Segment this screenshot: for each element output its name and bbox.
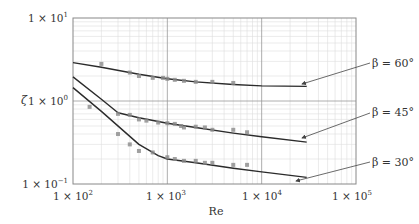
data-point — [231, 128, 235, 132]
data-points — [88, 62, 249, 167]
data-point — [182, 125, 186, 129]
data-point — [165, 77, 169, 81]
series-line-0 — [73, 63, 307, 87]
arrow-beta30 — [296, 162, 370, 181]
y-axis-label: ζ — [21, 94, 28, 107]
data-point — [231, 81, 235, 85]
y-tick-10e-1: 1 × 10−1 — [22, 177, 68, 190]
annotation-beta30: β = 30° — [372, 156, 414, 169]
data-point — [182, 159, 186, 163]
data-point — [165, 155, 169, 159]
data-point — [165, 121, 169, 125]
data-point — [194, 125, 198, 129]
data-point — [203, 161, 207, 165]
data-point — [151, 150, 155, 154]
data-point — [128, 142, 132, 146]
data-point — [210, 80, 214, 84]
data-point — [173, 157, 177, 161]
y-tick-10e0: 1 × 100 — [28, 94, 68, 107]
data-point — [116, 132, 120, 136]
y-tick-10e1: 1 × 101 — [28, 11, 68, 24]
data-point — [144, 119, 148, 123]
x-tick-10e4: 1 × 104 — [242, 189, 283, 202]
data-point — [137, 149, 141, 153]
data-point — [210, 161, 214, 165]
series-lines — [73, 63, 307, 178]
chart: 1 × 101 1 × 100 1 × 10−1 1 × 102 1 × 103… — [0, 0, 419, 224]
annotation-beta60: β = 60° — [372, 57, 414, 70]
data-point — [173, 122, 177, 126]
data-point — [245, 163, 249, 167]
data-point — [156, 121, 160, 125]
data-point — [88, 105, 92, 109]
data-point — [99, 62, 103, 66]
x-tick-10e3: 1 × 103 — [146, 189, 186, 202]
data-point — [137, 117, 141, 121]
data-point — [194, 159, 198, 163]
data-point — [137, 74, 141, 78]
data-point — [173, 78, 177, 82]
data-point — [203, 125, 207, 129]
x-tick-10e2: 1 × 102 — [53, 189, 93, 202]
data-point — [231, 163, 235, 167]
annotation-beta45: β = 45° — [372, 106, 414, 119]
arrow-beta60 — [302, 63, 370, 84]
data-point — [128, 113, 132, 117]
x-axis-label: Re — [209, 205, 224, 218]
data-point — [161, 76, 165, 80]
data-point — [245, 130, 249, 134]
data-point — [116, 112, 120, 116]
data-point — [194, 80, 198, 84]
x-tick-10e5: 1 × 105 — [332, 189, 372, 202]
data-point — [182, 79, 186, 83]
data-point — [128, 71, 132, 75]
data-point — [151, 76, 155, 80]
data-point — [210, 128, 214, 132]
